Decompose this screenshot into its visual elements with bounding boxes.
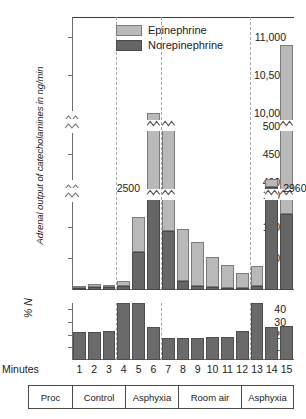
- main-bar-chart: 11,00010,50010,0005000450040001500100050…: [72, 17, 294, 290]
- minute-label: 5: [131, 363, 146, 375]
- bar-segment-norepinephrine: [236, 288, 249, 290]
- percent-n-bar: [147, 327, 160, 360]
- y-tick: [68, 75, 72, 76]
- y-tick: [68, 37, 72, 38]
- percent-n-bar: [265, 327, 278, 360]
- legend-item-epinephrine: Epinephrine: [116, 24, 223, 36]
- minute-label: 11: [220, 363, 235, 375]
- table-row: [103, 285, 116, 290]
- proc-cell-room-air: Room air: [179, 386, 242, 408]
- bar-segment-norepinephrine: [132, 252, 145, 290]
- table-row: [251, 266, 264, 290]
- percent-n-tick: [68, 309, 72, 310]
- minute-label: 8: [176, 363, 191, 375]
- figure-root: Adrenal output of catecholamines in ng/m…: [0, 0, 306, 419]
- bar-break-icon: [265, 189, 278, 200]
- legend-swatch-epinephrine-icon: [116, 25, 142, 36]
- percent-n-tick: [68, 322, 72, 323]
- legend-swatch-norepinephrine-icon: [116, 40, 142, 51]
- bar-segment-norepinephrine: [88, 287, 101, 290]
- percent-n-bar: [88, 332, 101, 360]
- bar-break-icon: [280, 120, 293, 131]
- minute-label: 6: [146, 363, 161, 375]
- table-row: [73, 286, 86, 290]
- legend-label-epinephrine: Epinephrine: [148, 24, 207, 36]
- section-separator: [116, 17, 117, 290]
- bar-segment-epinephrine: [177, 229, 190, 281]
- percent-n-bar: [280, 326, 293, 360]
- bar-break-icon: [147, 120, 160, 131]
- y-tick-label: 11,000: [255, 31, 286, 43]
- y-axis-line: [72, 17, 73, 290]
- percent-n-bar: [177, 338, 190, 360]
- bar-segment-norepinephrine: [251, 286, 264, 290]
- bar-segment-norepinephrine: [147, 190, 160, 290]
- bar-segment-epinephrine: [132, 217, 145, 252]
- percent-n-bar: [206, 337, 219, 360]
- percent-n-bar: [191, 338, 204, 360]
- bar-segment-epinephrine: [221, 265, 234, 288]
- bar-break-icon: [147, 189, 160, 200]
- table-row: [117, 281, 130, 291]
- section-separator: [250, 17, 251, 290]
- minute-label: 13: [250, 363, 265, 375]
- proc-cell-asphyxia-1: Asphyxia: [126, 386, 179, 408]
- bar-segment-epinephrine: [251, 266, 264, 286]
- minute-label: 1: [72, 363, 87, 375]
- minute-label: 15: [279, 363, 294, 375]
- y-tick: [68, 258, 72, 259]
- minute-label: 9: [190, 363, 205, 375]
- percent-n-bar: [132, 303, 145, 360]
- table-row: [177, 229, 190, 290]
- minutes-row-label: Minutes: [2, 363, 39, 375]
- table-row: [147, 113, 160, 290]
- bar-segment-norepinephrine: [73, 288, 86, 290]
- percent-n-bar: [117, 303, 130, 360]
- bar-segment-norepinephrine: [117, 286, 130, 290]
- bar-segment-norepinephrine: [221, 288, 234, 290]
- table-row: [88, 284, 101, 290]
- minute-label: 12: [235, 363, 250, 375]
- y-axis-break-icon: [65, 188, 80, 202]
- value-annotation: 2500: [117, 182, 140, 194]
- plot-top-border: [72, 17, 294, 18]
- table-row: [191, 242, 204, 290]
- percent-n-bar: [162, 338, 175, 360]
- percent-n-bar: [236, 331, 249, 360]
- percent-n-bar: [73, 332, 86, 360]
- table-row: [206, 257, 219, 290]
- y-tick: [68, 154, 72, 155]
- value-annotation: 2960: [283, 182, 306, 194]
- percent-n-tick: [68, 335, 72, 336]
- bar-segment-norepinephrine: [206, 287, 219, 290]
- minute-label: 2: [87, 363, 102, 375]
- percent-n-bar: [251, 303, 264, 360]
- bar-segment-norepinephrine: [280, 214, 293, 290]
- percent-n-chart: 40302010: [72, 303, 294, 360]
- proc-cell-control: Control: [73, 386, 126, 408]
- table-row: [162, 126, 175, 290]
- bar-segment-epinephrine: [265, 179, 278, 187]
- bar-segment-epinephrine: [206, 257, 219, 287]
- table-row: [280, 45, 293, 290]
- bar-break-icon: [162, 189, 175, 200]
- bar-segment-norepinephrine: [265, 187, 278, 290]
- minute-label: 4: [116, 363, 131, 375]
- y-axis-title: Adrenal output of catecholamines in ng/m…: [34, 31, 45, 281]
- y-axis-break-icon: [65, 119, 80, 133]
- bar-segment-norepinephrine: [162, 231, 175, 290]
- minute-label: 7: [161, 363, 176, 375]
- legend: Epinephrine Norepinephrine: [116, 24, 223, 54]
- table-row: [236, 273, 249, 290]
- legend-item-norepinephrine: Norepinephrine: [116, 39, 223, 51]
- bar-segment-epinephrine: [236, 273, 249, 288]
- table-row: [221, 265, 234, 290]
- bar-segment-norepinephrine: [103, 287, 116, 290]
- procedure-table: Proc Control Asphyxia Room air Asphyxia: [28, 385, 294, 409]
- minute-label: 10: [205, 363, 220, 375]
- minute-label: 14: [264, 363, 279, 375]
- y-tick: [68, 227, 72, 228]
- bar-segment-norepinephrine: [177, 281, 190, 291]
- minute-label: 3: [102, 363, 117, 375]
- percent-n-bar: [103, 331, 116, 360]
